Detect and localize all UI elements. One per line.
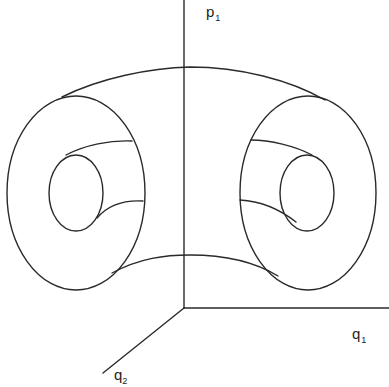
left-inner-bottom-curve [97, 201, 143, 218]
p1-axis-label: p1 [206, 3, 220, 23]
right-inner-top-curve [251, 140, 312, 155]
q2-axis-label: q2 [114, 366, 127, 386]
torus-top-arc [62, 67, 325, 100]
left-cross-section-outer [7, 96, 145, 290]
torus-bottom-arc [112, 255, 278, 276]
left-inner-top-curve [66, 141, 132, 155]
left-cross-section-inner [49, 155, 103, 231]
q1-axis-label: q1 [352, 325, 366, 345]
torus-diagram: p1 q1 q2 [0, 0, 389, 387]
right-cross-section-outer [240, 96, 376, 290]
q2-axis [103, 308, 184, 373]
right-cross-section-inner [280, 155, 334, 231]
